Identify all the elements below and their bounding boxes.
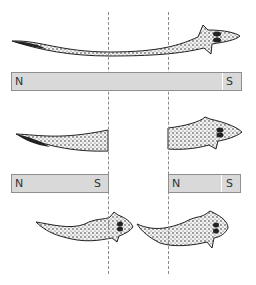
cut-line-left: [108, 12, 109, 274]
tail-fragment: [16, 130, 108, 151]
regenerated-worm-left: [36, 212, 133, 242]
worm-illustrations: [0, 0, 256, 285]
north-pole-label: N: [15, 176, 23, 192]
south-pole-label: S: [226, 176, 233, 192]
diagram: N S N S N S: [0, 0, 256, 285]
regenerated-worm-right: [137, 211, 228, 248]
magnet-top: N S: [11, 72, 242, 91]
south-pole-label: S: [94, 176, 101, 192]
north-pole-label: N: [172, 176, 180, 192]
magnet-mid-left: N S: [11, 174, 109, 193]
north-pole-label: N: [15, 74, 23, 90]
magnet-mid-right: N S: [168, 174, 241, 193]
head-fragment: [168, 117, 242, 149]
south-pole-label: S: [226, 74, 233, 90]
full-worm: [12, 25, 240, 56]
cut-line-right: [168, 12, 169, 274]
